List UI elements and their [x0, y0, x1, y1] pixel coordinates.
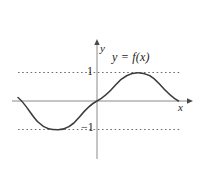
function-graph-figure: y x y = f(x) 1 −1 — [0, 0, 203, 177]
y-axis-label: y — [100, 43, 105, 54]
y-tick-label-negative-one: −1 — [81, 121, 94, 133]
y-axis-arrow-icon — [94, 39, 99, 45]
x-axis-label: x — [178, 102, 183, 113]
y-tick-label-one: 1 — [87, 65, 93, 77]
function-equation-label: y = f(x) — [112, 51, 150, 63]
x-axis-arrow-icon — [187, 98, 193, 103]
plot-canvas — [0, 0, 203, 177]
